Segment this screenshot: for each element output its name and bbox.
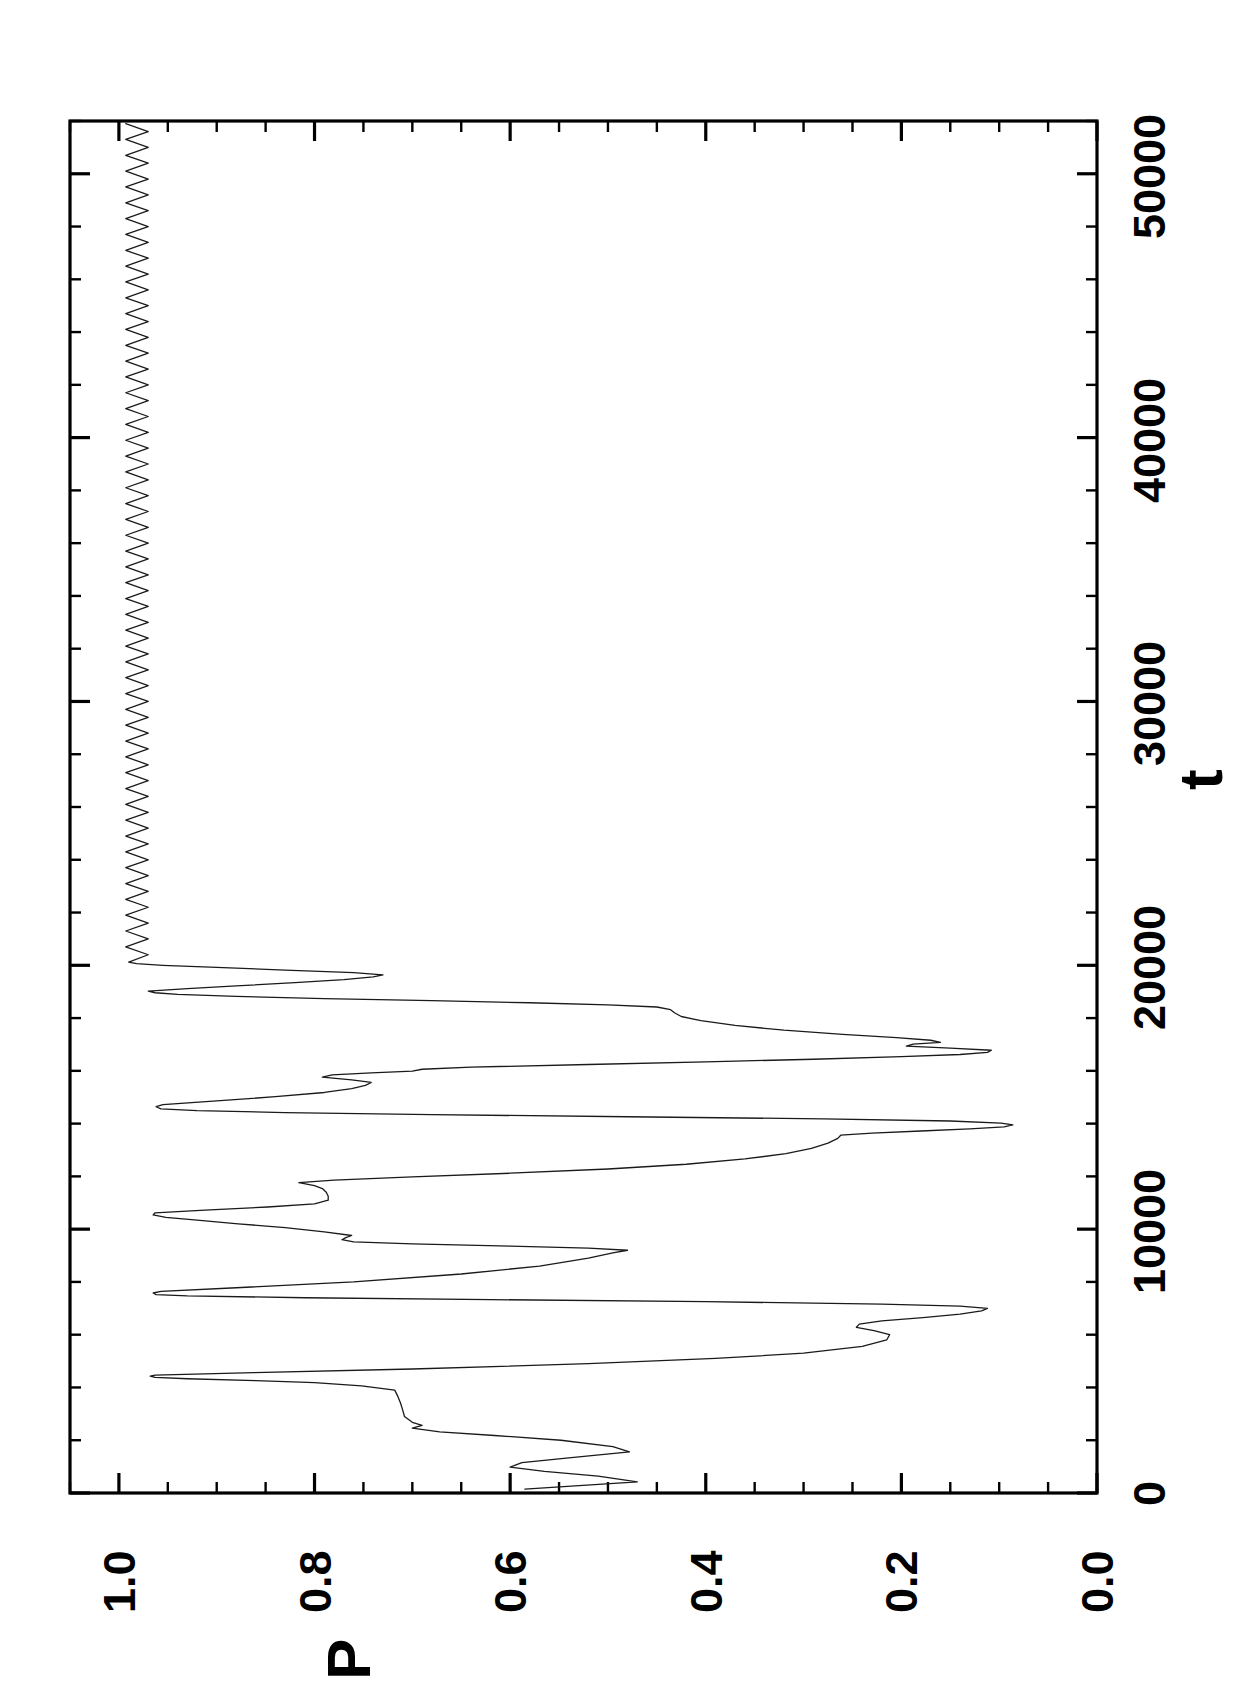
x-tick-label: 20000 (1127, 905, 1172, 1030)
y-tick-label: 0.2 (879, 1550, 924, 1613)
y-axis-ticks (70, 121, 1097, 1493)
data-series-line (126, 124, 1013, 1489)
x-axis-title: t (1170, 769, 1232, 790)
y-tick-label: 0.4 (684, 1550, 729, 1613)
y-tick-label: 1.0 (97, 1550, 142, 1613)
x-axis-ticks (70, 121, 1097, 1493)
x-tick-label: 30000 (1127, 641, 1172, 766)
x-tick-label: 0 (1127, 1481, 1172, 1506)
chart-plot-area (0, 0, 1239, 1707)
y-axis-title: P (318, 1639, 380, 1680)
x-tick-label: 10000 (1127, 1169, 1172, 1294)
axis-frame (70, 121, 1097, 1493)
y-tick-label: 0.8 (293, 1550, 338, 1613)
x-tick-label: 50000 (1127, 114, 1172, 239)
figure-canvas: 01000020000300004000050000 0.00.20.40.60… (0, 0, 1239, 1707)
x-tick-label: 40000 (1127, 377, 1172, 502)
y-tick-label: 0.0 (1075, 1550, 1120, 1613)
y-tick-label: 0.6 (488, 1550, 533, 1613)
